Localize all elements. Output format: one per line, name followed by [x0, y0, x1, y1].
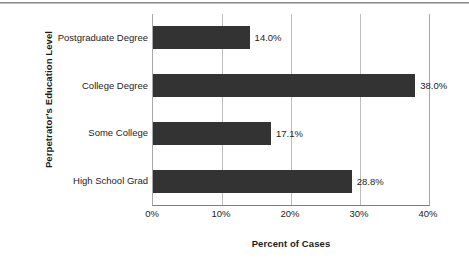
- category-label: College Degree: [38, 80, 148, 91]
- bar: [153, 26, 250, 49]
- plot-area: 14.0%38.0%17.1%28.8%: [152, 14, 430, 206]
- category-label: Postgraduate Degree: [38, 32, 148, 43]
- bar: [153, 74, 415, 97]
- x-tick-label: 10%: [211, 208, 230, 219]
- x-tick-label: 40%: [418, 208, 437, 219]
- x-tick-label: 20%: [280, 208, 299, 219]
- x-tick-label: 0%: [145, 208, 159, 219]
- category-axis-labels: Postgraduate DegreeCollege DegreeSome Co…: [38, 14, 148, 205]
- bar: [153, 122, 271, 145]
- category-label: High School Grad: [38, 175, 148, 186]
- category-label: Some College: [38, 127, 148, 138]
- page-top-rule-shadow: [0, 3, 469, 4]
- x-axis-tick-labels: 0%10%20%30%40%: [152, 208, 430, 222]
- bar-value-label: 17.1%: [276, 122, 303, 145]
- bar: [153, 170, 352, 193]
- chart-page: Perpetrator's Education Level Postgradua…: [0, 0, 469, 262]
- x-axis-title: Percent of Cases: [152, 238, 430, 249]
- bar-value-label: 14.0%: [255, 26, 282, 49]
- x-tick-label: 30%: [349, 208, 368, 219]
- bar-value-label: 28.8%: [357, 170, 384, 193]
- bar-value-label: 38.0%: [420, 74, 447, 97]
